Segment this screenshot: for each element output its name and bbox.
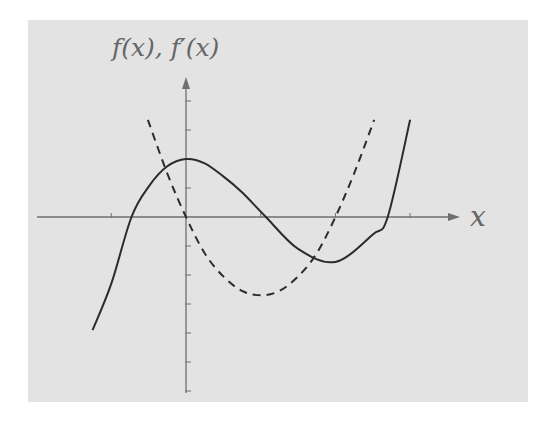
plot-panel [28,20,528,402]
x-axis-label: x [470,200,486,233]
y-axis-label: f(x), f′(x) [110,33,219,62]
chart-figure: f(x), f′(x) x [0,0,551,422]
